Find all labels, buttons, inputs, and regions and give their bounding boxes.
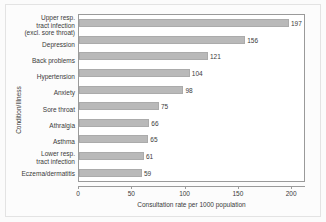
y-axis-tick-label-text: Eczema/dermatitis [22,170,75,178]
bar [79,135,148,143]
bar-value-label: 197 [289,20,302,27]
x-axis-tick [78,186,79,189]
bar [79,169,142,177]
x-axis-tick [238,186,239,189]
bar-row: 61 [79,148,304,165]
bar [79,52,208,60]
y-axis-tick-label-text: Athralgia [49,122,75,130]
y-axis-tick-label: Hypertension [22,69,78,85]
y-axis-tick-label: Sore throat [22,101,78,117]
x-axis-title: Consultation rate per 1000 population [78,201,305,208]
y-axis-tick-labels: Upper resp.tract infection(excl. sore th… [22,14,78,182]
bar-row: 65 [79,131,304,148]
plot-area: 197156121104987566656159 [78,14,305,182]
y-axis-tick-label: Athralgia [22,117,78,133]
x-axis-tick-label: 200 [286,190,297,197]
y-axis-tick-label-text: Sore throat [43,106,75,114]
x-axis-tick [185,186,186,189]
bar-value-label: 66 [149,119,158,126]
bar-value-label: 61 [144,153,153,160]
y-axis-tick-label-text: Depression [42,41,75,49]
bar-value-label: 156 [245,36,258,43]
bar-row: 75 [79,98,304,115]
y-axis-tick-label-text: Back problems [32,57,75,65]
bar-value-label: 121 [208,53,221,60]
y-axis-tick-label-text: Asthma [53,138,75,146]
chart-screenshot: Condition/Illness Upper resp.tract infec… [0,0,326,222]
bar-value-label: 104 [190,70,203,77]
bar [79,86,183,94]
y-axis-tick-label: Depression [22,37,78,53]
bar [79,152,144,160]
y-axis-tick-label: Lower resp.tract infection [22,150,78,166]
x-axis-tick [131,186,132,189]
y-axis-tick-label-text: Hypertension [37,73,75,81]
y-axis-tick-label-text: Lower resp.tract infection [36,150,75,165]
bar-row: 59 [79,164,304,181]
y-axis-tick-label-text: Upper resp.tract infection(excl. sore th… [24,14,75,37]
y-axis-tick-label: Anxiety [22,85,78,101]
x-axis-tick [291,186,292,189]
y-axis-tick-label-text: Anxiety [54,89,75,97]
bar [79,119,149,127]
x-axis-tick-label: 100 [179,190,190,197]
bar-row: 104 [79,65,304,82]
bar [79,36,245,44]
bar-row: 121 [79,48,304,65]
bar-row: 66 [79,115,304,132]
bar-value-label: 59 [142,169,151,176]
bar-row: 156 [79,32,304,49]
x-axis-tick-label: 50 [128,190,135,197]
bar-value-label: 75 [159,103,168,110]
y-axis-tick-label: Eczema/dermatitis [22,166,78,182]
bar-row: 197 [79,15,304,32]
bar-value-label: 65 [148,136,157,143]
y-axis-tick-label: Asthma [22,134,78,150]
bar-value-label: 98 [183,86,192,93]
x-axis-line [78,186,305,187]
bar [79,102,159,110]
bar [79,19,289,27]
y-axis-tick-label: Back problems [22,53,78,69]
bar-rows: 197156121104987566656159 [79,15,304,181]
y-axis-tick-label: Upper resp.tract infection(excl. sore th… [22,14,78,37]
bar [79,69,190,77]
bar-row: 98 [79,81,304,98]
x-axis-tick-label: 0 [76,190,80,197]
x-axis-tick-label: 150 [232,190,243,197]
